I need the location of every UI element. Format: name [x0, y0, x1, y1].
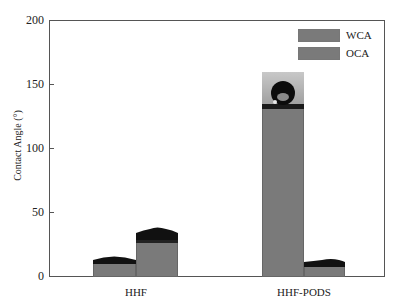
x-category-label: HHF	[86, 286, 186, 298]
y-tick-label: 0	[14, 270, 44, 282]
droplet-image-hhf-pods-wca	[262, 72, 304, 109]
legend-swatch-wca	[298, 29, 340, 42]
y-tick-0	[49, 276, 54, 277]
legend-swatch-oca	[298, 47, 340, 60]
y-tick-100	[49, 148, 54, 149]
y-tick-label: 150	[14, 78, 44, 90]
y-tick-50	[49, 212, 54, 213]
legend-label-wca: WCA	[346, 29, 372, 42]
bar-hhf-pods-wca	[262, 108, 304, 277]
y-tick-200	[49, 20, 54, 21]
y-axis-label: Contact Angle (°)	[12, 101, 23, 191]
bar-hhf-oca	[136, 242, 178, 277]
y-tick-label: 200	[14, 14, 44, 26]
bar-hhf-wca	[93, 263, 136, 277]
droplet-image-hhf-pods-oca	[304, 258, 345, 267]
legend-label-oca: OCA	[346, 47, 369, 60]
droplet-image-hhf-wca	[93, 255, 136, 264]
x-category-label: HHF-PODS	[254, 286, 354, 298]
y-tick-150	[49, 84, 54, 85]
droplet-image-hhf-oca	[136, 227, 178, 243]
y-tick-label: 50	[14, 206, 44, 218]
bar-hhf-pods-oca	[304, 266, 345, 277]
